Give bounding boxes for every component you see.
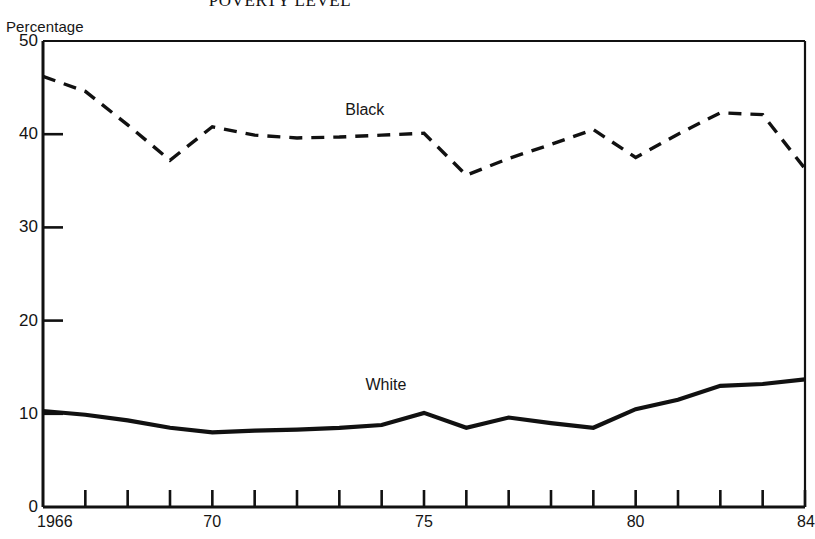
x-axis-tick-label: 1966 [37,514,73,530]
series-label-black: Black [345,102,384,118]
series-line-black [43,76,805,175]
series-line-white [43,379,805,432]
x-axis-tick-label: 84 [797,514,815,530]
axis-lines [43,41,805,507]
series-label-white: White [365,377,406,393]
x-axis-tick-label: 75 [415,514,433,530]
x-axis-tick-label: 70 [203,514,221,530]
x-axis-ticks [85,490,805,507]
x-axis-tick-label: 80 [627,514,645,530]
y-axis-ticks [43,134,63,414]
